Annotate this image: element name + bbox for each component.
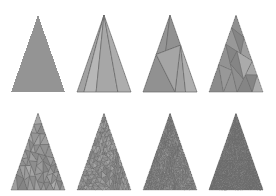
- mesh-panel-1: [11, 15, 65, 92]
- triangle-mesh-diagram: [0, 0, 276, 196]
- mesh-cell: [231, 186, 232, 187]
- mesh-panel-6: [77, 113, 131, 190]
- mesh-panel-8: [209, 113, 263, 190]
- mesh-cell: [11, 15, 65, 92]
- mesh-panel-3: [143, 15, 197, 92]
- mesh-cell: [249, 188, 250, 189]
- mesh-panel-7: [143, 113, 197, 190]
- mesh-panel-2: [77, 15, 131, 92]
- mesh-cell: [261, 189, 262, 190]
- mesh-cell: [34, 113, 42, 125]
- mesh-cell: [233, 165, 234, 166]
- figure-root: [0, 0, 276, 196]
- mesh-panel-4: [209, 15, 263, 92]
- mesh-cell: [93, 138, 96, 146]
- mesh-panel-5: [11, 113, 65, 190]
- mesh-cell: [108, 125, 110, 131]
